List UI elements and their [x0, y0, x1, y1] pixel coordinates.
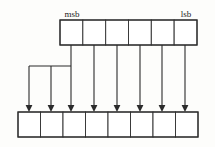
lsb-label: lsb [181, 9, 192, 19]
arrow-head [137, 105, 144, 112]
dest-cell[interactable] [153, 112, 176, 137]
source-cell[interactable] [106, 20, 129, 45]
arrow-head [26, 105, 33, 112]
dest-cell[interactable] [86, 112, 109, 137]
dest-cell[interactable] [18, 112, 41, 137]
dest-cell[interactable] [108, 112, 131, 137]
destination-register [18, 112, 198, 137]
source-cell[interactable] [129, 20, 152, 45]
dest-cell[interactable] [63, 112, 86, 137]
source-cell[interactable] [151, 20, 174, 45]
source-register [60, 20, 197, 45]
arrow-head [68, 105, 75, 112]
source-cell[interactable] [60, 20, 83, 45]
arrow-head [182, 105, 189, 112]
dest-cell[interactable] [41, 112, 64, 137]
register-routing-diagram: msb lsb [0, 0, 215, 147]
dest-cell[interactable] [131, 112, 154, 137]
routing-wires [26, 45, 189, 112]
arrow-head [159, 105, 166, 112]
dest-cell[interactable] [176, 112, 199, 137]
source-cell[interactable] [174, 20, 197, 45]
msb-label: msb [64, 9, 80, 19]
arrow-head [114, 105, 121, 112]
source-cell[interactable] [83, 20, 106, 45]
arrow-head [48, 105, 55, 112]
diagram-canvas: msb lsb [0, 0, 215, 147]
arrow-head [91, 105, 98, 112]
